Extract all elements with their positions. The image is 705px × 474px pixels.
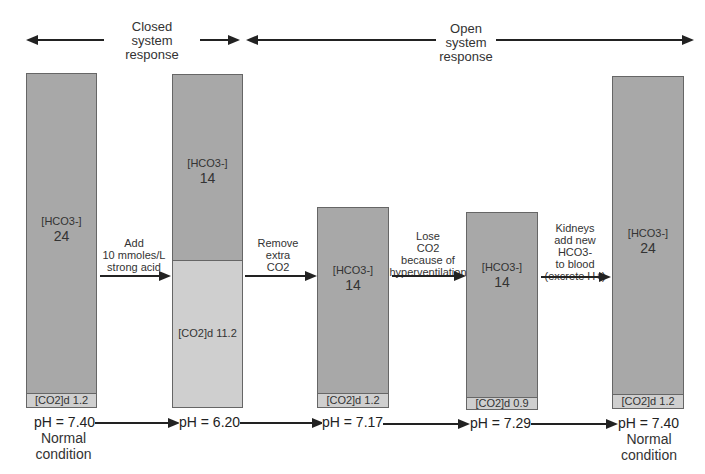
arrow-head-right-icon bbox=[599, 272, 611, 282]
normal-condition-note: Normal condition bbox=[612, 431, 686, 463]
open-system-label: Open system response bbox=[436, 22, 496, 64]
step-kidneys-arrow bbox=[541, 276, 599, 278]
step-remove-co2-label: Remove extra CO2 bbox=[245, 237, 311, 273]
dissolved-co2-label: [CO2]d 11.2 bbox=[172, 326, 243, 340]
step-hyperventilation-arrow bbox=[392, 275, 454, 277]
bicarbonate-bar-co2-removed bbox=[317, 207, 389, 394]
closed-system-label: Closed system response bbox=[104, 20, 200, 62]
arrow-head-right-icon bbox=[228, 35, 240, 45]
arrow-head-right-icon bbox=[305, 271, 317, 281]
dissolved-co2-box: [CO2]d 1.2 bbox=[317, 393, 389, 408]
arrow-head-right-icon bbox=[606, 419, 618, 429]
bicarbonate-label: [HCO3-] 24 bbox=[612, 226, 684, 257]
ph-value: pH = 7.29 bbox=[470, 415, 531, 431]
normal-condition-note: Normal condition bbox=[26, 430, 101, 462]
bicarbonate-bar-hyperventilation bbox=[466, 212, 538, 398]
ph-value: pH = 7.40 bbox=[618, 415, 679, 431]
dissolved-co2-box: [CO2]d 1.2 bbox=[612, 394, 684, 409]
ph-value: pH = 7.40 bbox=[34, 414, 95, 430]
step-add-acid-arrow bbox=[100, 275, 160, 277]
arrow-head-right-icon bbox=[682, 35, 694, 45]
ph-arrow-1 bbox=[92, 422, 172, 424]
dissolved-co2-box: [CO2]d 0.9 bbox=[466, 397, 538, 410]
bicarbonate-label: [HCO3-] 14 bbox=[317, 263, 389, 294]
arrow-head-right-icon bbox=[454, 271, 466, 281]
step-add-acid-label: Add 10 mmoles/L strong acid bbox=[98, 237, 170, 273]
arrow-head-right-icon bbox=[159, 271, 171, 281]
bicarbonate-label: [HCO3-] 14 bbox=[172, 156, 243, 187]
ph-arrow-2 bbox=[236, 422, 316, 424]
dissolved-co2-box: [CO2]d 1.2 bbox=[26, 393, 97, 408]
ph-arrow-4 bbox=[528, 423, 610, 425]
step-remove-co2-arrow bbox=[245, 275, 305, 277]
arrow-head-right-icon bbox=[458, 419, 470, 429]
bicarbonate-label: [HCO3-] 24 bbox=[26, 214, 97, 245]
ph-value: pH = 6.20 bbox=[179, 414, 240, 430]
bicarbonate-label: [HCO3-] 14 bbox=[466, 260, 538, 291]
ph-value: pH = 7.17 bbox=[322, 414, 383, 430]
ph-arrow-3 bbox=[380, 423, 460, 425]
